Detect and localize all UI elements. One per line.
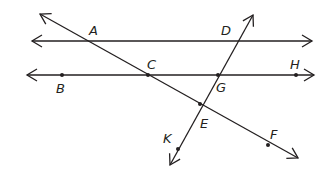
line-BH: [27, 69, 314, 81]
point-c-dot: [146, 73, 150, 77]
point-label-k: K: [163, 132, 172, 145]
point-e-dot: [198, 102, 202, 106]
point-label-g: G: [216, 81, 226, 94]
point-b-dot: [60, 73, 64, 77]
point-label-b: B: [56, 82, 65, 95]
point-g-dot: [216, 73, 220, 77]
points-layer: [60, 73, 298, 151]
point-label-f: F: [270, 128, 277, 141]
geometry-diagram: [0, 0, 334, 176]
point-label-c: C: [147, 58, 156, 71]
point-label-h: H: [290, 58, 300, 71]
line-DGEK: [170, 15, 254, 165]
line-AD: [32, 35, 312, 47]
point-label-d: D: [221, 24, 231, 37]
point-label-e: E: [200, 117, 208, 130]
point-f-dot: [266, 143, 270, 147]
point-label-a: A: [89, 24, 98, 37]
point-k-dot: [176, 147, 180, 151]
point-h-dot: [294, 73, 298, 77]
